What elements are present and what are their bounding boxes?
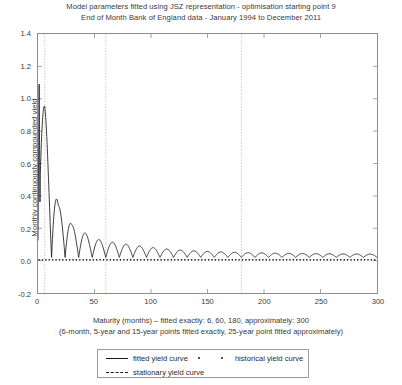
legend-row-1: fitted yield curve historical yield curv… bbox=[98, 351, 308, 365]
x-tick-label: 0 bbox=[35, 297, 39, 306]
x-tick-label: 50 bbox=[90, 297, 98, 306]
x-tick-label: 150 bbox=[201, 297, 214, 306]
x-tick-label: 300 bbox=[372, 297, 385, 306]
legend-label-historical: historical yield curve bbox=[235, 354, 303, 363]
x-tick-label: 100 bbox=[144, 297, 157, 306]
legend-label-fitted: fitted yield curve bbox=[133, 354, 188, 363]
legend-solid-line-icon bbox=[104, 353, 130, 363]
legend-row-2: stationary yield curve bbox=[98, 365, 308, 379]
plot-svg bbox=[38, 34, 377, 293]
figure: Model parameters fitted using JSZ repres… bbox=[0, 0, 402, 385]
legend-label-stationary: stationary yield curve bbox=[133, 368, 204, 377]
legend: fitted yield curve historical yield curv… bbox=[97, 349, 309, 378]
caption-line-2: (6-month, 5-year and 15-year points fitt… bbox=[0, 326, 402, 337]
plot-area bbox=[37, 33, 378, 294]
x-tick-label: 200 bbox=[258, 297, 271, 306]
legend-dot-marker-icon bbox=[188, 353, 232, 363]
x-tick-label: 250 bbox=[315, 297, 328, 306]
caption-line-1: Maturity (months) – fitted exactly: 6, 6… bbox=[0, 315, 402, 326]
legend-dashed-line-icon bbox=[104, 367, 130, 377]
